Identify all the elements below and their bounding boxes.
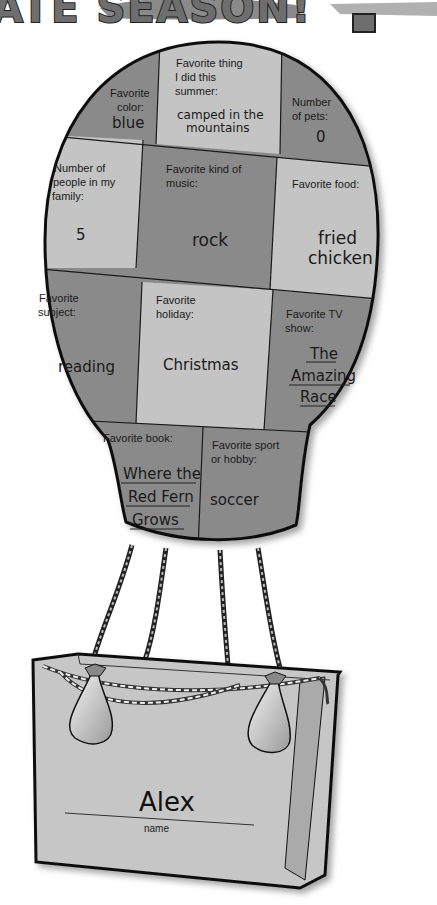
cell-answer: Race [300, 388, 337, 406]
cell-label: Favorite kind of [166, 163, 242, 175]
cell-label: show: [285, 322, 314, 334]
cell-answer: blue [112, 114, 144, 132]
name-value: Alex [139, 787, 195, 817]
cell-answer: camped in the [177, 108, 264, 122]
cell-label: Favorite thing [176, 57, 243, 69]
cell-answer: soccer [210, 491, 260, 509]
cell-label: music: [166, 177, 198, 189]
name-label: name [144, 823, 169, 834]
cell-label: or hobby: [211, 453, 257, 465]
cell-answer: 0 [316, 128, 326, 146]
title-banner: ATE SEASON! [0, 0, 437, 32]
cell-label: summer: [175, 85, 218, 97]
cell-answer: Grows [132, 511, 179, 529]
title-banner-text: ATE SEASON! [0, 0, 312, 31]
cell-answer: Christmas [163, 356, 239, 374]
cell-label: Favorite book: [103, 432, 173, 444]
balloon-illustration: ATE SEASON! [0, 0, 437, 905]
cell-label: Favorite [110, 87, 150, 99]
balloon-ropes [93, 545, 280, 668]
cell-answer: reading [58, 358, 115, 376]
cell-answer: The [309, 345, 338, 363]
cell-label: Favorite [156, 294, 196, 306]
cell-answer: rock [192, 230, 228, 250]
cell-label: I did this [175, 71, 216, 83]
cell-label: Number of [54, 162, 106, 174]
cell-answer: Red Fern [128, 488, 194, 506]
cell-answer: Where the [123, 465, 201, 483]
cell-label: people in my [53, 176, 116, 188]
cell-label: color: [117, 101, 144, 113]
cell-answer: 5 [76, 226, 86, 244]
cell-answer: Amazing [291, 367, 356, 385]
cell-answer: mountains [186, 121, 250, 135]
cell-label: Favorite [39, 292, 79, 304]
cell-label: Number [292, 96, 331, 108]
cell-label: of pets: [292, 110, 328, 122]
cell-label: Favorite food: [292, 178, 359, 190]
cell-label: holiday: [156, 308, 194, 320]
cell-label: Favorite sport [212, 439, 279, 451]
cell-answer: chicken [308, 248, 373, 268]
cell-answer: fried [318, 228, 357, 248]
cell-label: family: [52, 190, 84, 202]
cell-label: subject: [38, 306, 76, 318]
cell-label: Favorite TV [286, 308, 343, 320]
